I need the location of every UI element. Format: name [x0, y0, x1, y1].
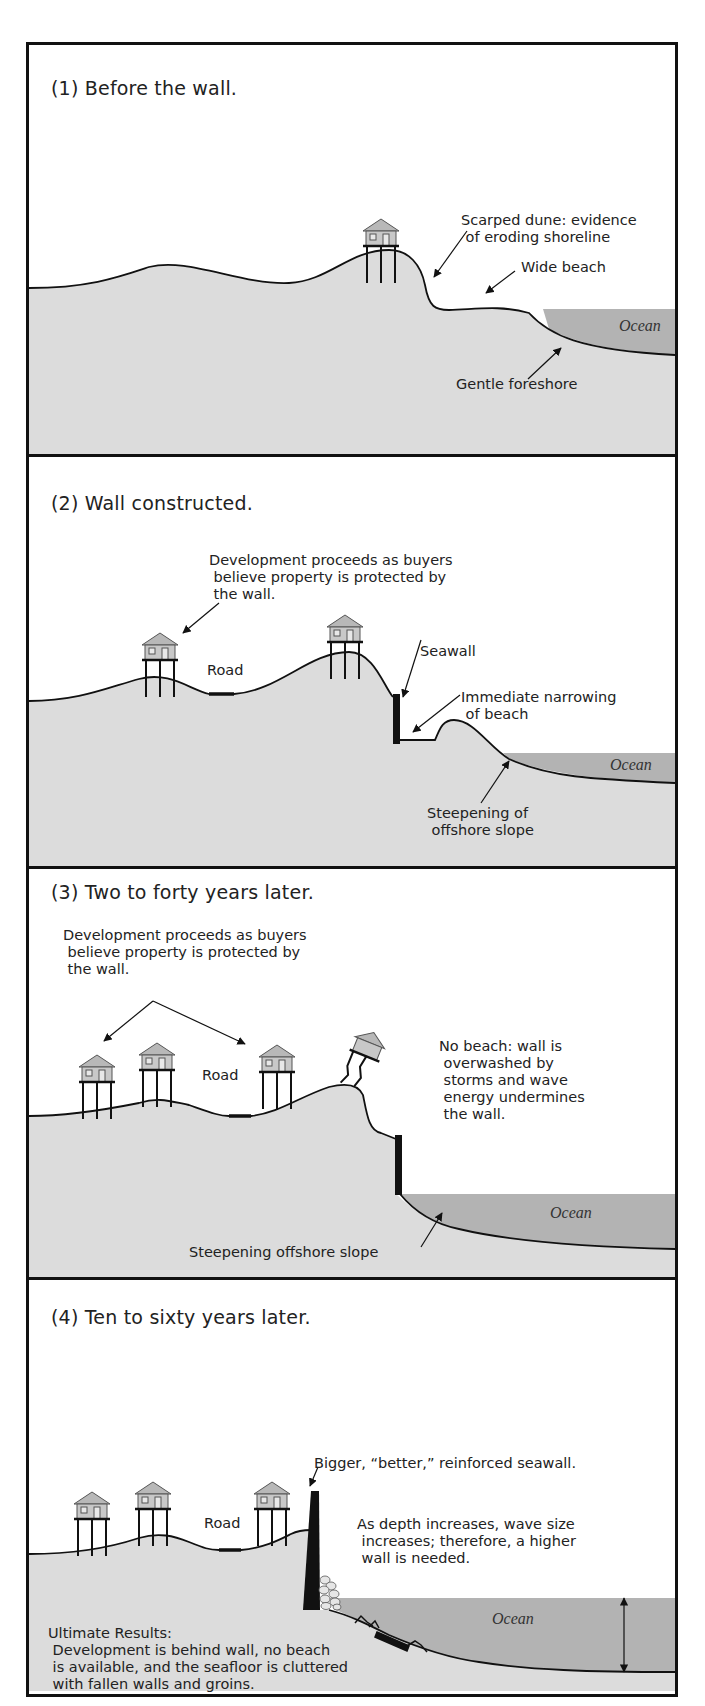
- panel-title: (2) Wall constructed.: [51, 492, 253, 514]
- panel-2-illustration: [29, 457, 675, 869]
- label-steepening: Steepening offshore slope: [189, 1244, 378, 1261]
- label-no-beach: No beach: wall is overwashed by storms a…: [439, 1038, 585, 1123]
- house-icon: [139, 1043, 175, 1107]
- panel-ten-to-sixty-years: (4) Ten to sixty years later. Bigger, “b…: [29, 1280, 675, 1694]
- label-narrowing: Immediate narrowing of beach: [461, 689, 616, 723]
- label-ultimate-heading: Ultimate Results:: [48, 1625, 172, 1642]
- development-arrow: [183, 603, 219, 633]
- label-ocean: Ocean: [610, 756, 652, 774]
- seawall: [393, 694, 400, 744]
- label-depth: As depth increases, wave size increases;…: [357, 1516, 576, 1567]
- label-development: Development proceeds as buyers believe p…: [209, 552, 453, 603]
- label-gentle-foreshore: Gentle foreshore: [456, 376, 577, 393]
- panel-title: (4) Ten to sixty years later.: [51, 1306, 311, 1328]
- diagram-frame: (1) Before the wall. Scarped dune: evide…: [26, 42, 678, 1697]
- label-scarped-dune: Scarped dune: evidence of eroding shorel…: [461, 212, 637, 246]
- panel-title: (3) Two to forty years later.: [51, 881, 314, 903]
- wide-beach-arrow: [486, 271, 515, 293]
- panel-before-wall: (1) Before the wall. Scarped dune: evide…: [29, 45, 675, 457]
- label-development: Development proceeds as buyers believe p…: [63, 927, 307, 978]
- panel-two-to-forty-years: (3) Two to forty years later. Developmen…: [29, 869, 675, 1280]
- panel-title: (1) Before the wall.: [51, 77, 237, 99]
- label-ultimate-body: Development is behind wall, no beach is …: [48, 1642, 348, 1693]
- label-ocean: Ocean: [492, 1610, 534, 1628]
- label-seawall: Seawall: [420, 643, 476, 660]
- house-icon: [259, 1045, 295, 1109]
- label-road: Road: [204, 1515, 240, 1532]
- riprap-boulders: [319, 1576, 341, 1610]
- development-arrow-right: [153, 1001, 245, 1044]
- label-road: Road: [202, 1067, 238, 1084]
- panel-1-illustration: [29, 45, 675, 457]
- panel-wall-constructed: (2) Wall constructed. Development procee…: [29, 457, 675, 869]
- seawall: [395, 1135, 402, 1195]
- collapsing-house-icon: [337, 1026, 389, 1093]
- development-arrow-left: [104, 1001, 153, 1041]
- label-ocean: Ocean: [619, 317, 661, 335]
- label-steepening: Steepening of offshore slope: [427, 805, 534, 839]
- label-ocean: Ocean: [550, 1204, 592, 1222]
- label-road: Road: [207, 662, 243, 679]
- label-wide-beach: Wide beach: [521, 259, 606, 276]
- seawall-arrow: [403, 640, 421, 697]
- label-bigger-wall: Bigger, “better,” reinforced seawall.: [314, 1455, 576, 1472]
